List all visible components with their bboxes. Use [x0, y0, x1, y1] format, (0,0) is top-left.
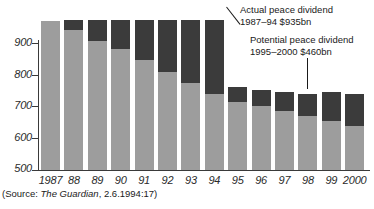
bar-97-peace-dividend-segment [275, 92, 294, 111]
annotation-actual-leader-line [226, 7, 240, 25]
bar-2000-peace-dividend-segment [345, 94, 364, 126]
bar-93-peace-dividend-segment [181, 20, 200, 83]
y-axis-label-500: 500 [2, 163, 32, 174]
bar-94 [205, 20, 224, 170]
annotation-potential-line1: Potential peace dividend [250, 34, 354, 46]
bar-89-peace-dividend-segment [88, 20, 107, 42]
bar-98-peace-dividend-segment [298, 94, 317, 116]
bar-99-peace-dividend-segment [322, 92, 341, 121]
source-publication: The Guardian [41, 188, 99, 199]
bar-88 [64, 20, 83, 170]
annotation-actual-line1: Actual peace dividend [240, 4, 333, 16]
bar-92-peace-dividend-segment [158, 20, 177, 72]
bar-92-spending-segment [158, 72, 177, 170]
bar-97 [275, 92, 294, 170]
bar-97-spending-segment [275, 111, 294, 170]
bar-99-spending-segment [322, 121, 341, 170]
bar-90 [111, 20, 130, 170]
bar-89 [88, 20, 107, 170]
bar-88-spending-segment [64, 30, 83, 170]
bar-94-spending-segment [205, 94, 224, 170]
source-citation: (Source: The Guardian, 2.6.1994:17) [2, 188, 157, 199]
y-axis-label-800: 800 [2, 69, 32, 80]
bar-96-peace-dividend-segment [252, 90, 271, 107]
bar-98-spending-segment [298, 116, 317, 170]
bar-1987 [41, 21, 60, 170]
annotation-potential-leader-line [307, 58, 308, 89]
annotation-potential-peace-dividend: Potential peace dividend 1995–2000 $460b… [250, 34, 354, 57]
annotation-actual-peace-dividend: Actual peace dividend 1987–94 $935bn [240, 4, 333, 27]
bar-96 [252, 90, 271, 170]
bar-98 [298, 94, 317, 170]
y-axis-label-700: 700 [2, 100, 32, 111]
bar-91-peace-dividend-segment [135, 20, 154, 61]
bar-90-spending-segment [111, 49, 130, 170]
y-axis-label-600: 600 [2, 132, 32, 143]
bar-1987-spending-segment [41, 21, 60, 170]
bar-91 [135, 20, 154, 170]
source-prefix: (Source: [2, 188, 41, 199]
bar-99 [322, 92, 341, 170]
annotation-actual-line2: 1987–94 $935bn [240, 16, 333, 28]
x-axis-line [38, 170, 370, 171]
y-axis-line [38, 40, 39, 171]
bar-96-spending-segment [252, 106, 271, 170]
bar-94-peace-dividend-segment [205, 20, 224, 94]
source-suffix: , 2.6.1994:17) [99, 188, 158, 199]
bar-92 [158, 20, 177, 170]
bar-2000-spending-segment [345, 126, 364, 170]
bar-89-spending-segment [88, 41, 107, 170]
bar-93-spending-segment [181, 83, 200, 170]
bar-2000 [345, 94, 364, 170]
y-axis-label-900: 900 [2, 37, 32, 48]
peace-dividend-chart: 900 800 700 600 500 19878889909192939495… [0, 0, 374, 209]
bar-95-spending-segment [228, 102, 247, 170]
bar-95 [228, 87, 247, 170]
bar-88-peace-dividend-segment [64, 20, 83, 30]
bar-90-peace-dividend-segment [111, 20, 130, 49]
bar-93 [181, 20, 200, 170]
bar-91-spending-segment [135, 60, 154, 170]
bar-95-peace-dividend-segment [228, 87, 247, 101]
annotation-potential-line2: 1995–2000 $460bn [250, 46, 354, 58]
x-axis-label-2000: 2000 [340, 174, 369, 186]
y-axis-labels: 900 800 700 600 500 [0, 0, 32, 209]
